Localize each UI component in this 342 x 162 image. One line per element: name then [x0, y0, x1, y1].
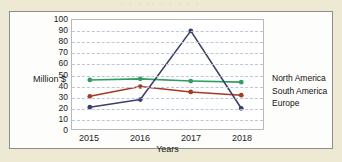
data-point-north-america-2016: [138, 77, 143, 82]
gridline-60: [72, 64, 263, 65]
series-line-north-america: [90, 79, 241, 82]
chart-legend: North AmericaSouth AmericaEurope: [272, 72, 334, 110]
legend-item-south-america: South America: [272, 85, 334, 98]
series-layer: [72, 20, 263, 129]
y-axis-tick-labels: 0102030405060708090100: [40, 12, 68, 132]
x-axis-title: Years: [71, 144, 264, 154]
legend-item-europe: Europe: [272, 97, 334, 110]
data-point-north-america-2015: [87, 78, 92, 83]
y-axis-tick-100: 100: [40, 15, 68, 23]
x-axis-tick-2015: 2015: [69, 133, 109, 143]
gridline-90: [72, 31, 263, 32]
y-axis-tick-80: 80: [40, 37, 68, 45]
gridline-50: [72, 76, 263, 77]
data-point-north-america-2017: [188, 79, 193, 84]
x-axis-tick-2018: 2018: [222, 133, 262, 143]
gridline-40: [72, 87, 263, 88]
data-point-north-america-2018: [239, 80, 244, 85]
y-axis-tick-0: 0: [40, 126, 68, 134]
y-axis-tick-10: 10: [40, 115, 68, 123]
gridline-70: [72, 53, 263, 54]
gridline-80: [72, 42, 263, 43]
chart-figure-frame: Million $ 0102030405060708090100 2015201…: [9, 11, 333, 149]
gridline-10: [72, 120, 263, 121]
scan-edge-artifact: · · · ·· · · · · ·: [0, 0, 342, 9]
y-axis-tick-40: 40: [40, 82, 68, 90]
data-point-south-america-2017: [188, 90, 193, 95]
series-line-south-america: [90, 86, 241, 96]
gridline-20: [72, 109, 263, 110]
plot-area: [71, 19, 264, 130]
y-axis-tick-30: 30: [40, 93, 68, 101]
x-axis-tick-2016: 2016: [120, 133, 160, 143]
y-axis-tick-50: 50: [40, 71, 68, 79]
x-axis-tick-2017: 2017: [171, 133, 211, 143]
y-axis-tick-20: 20: [40, 104, 68, 112]
y-axis-tick-60: 60: [40, 59, 68, 67]
line-chart: Million $ 0102030405060708090100 2015201…: [10, 12, 334, 150]
legend-item-north-america: North America: [272, 72, 334, 85]
y-axis-tick-70: 70: [40, 48, 68, 56]
y-axis-tick-90: 90: [40, 26, 68, 34]
gridline-30: [72, 98, 263, 99]
